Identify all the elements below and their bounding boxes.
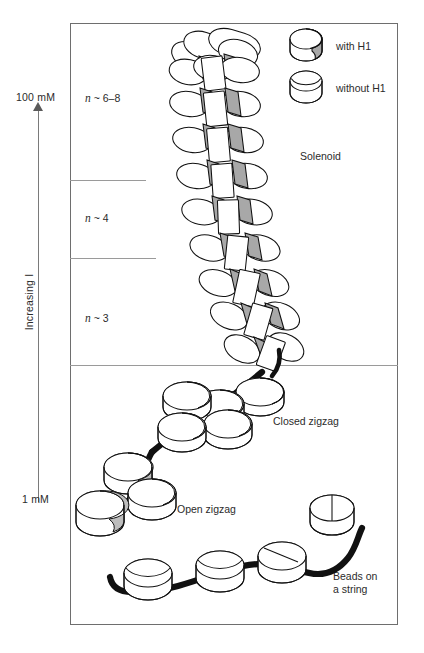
- chromatin-structure-illustration: [0, 0, 424, 653]
- solenoid-tier-4: [171, 124, 266, 163]
- open-zigzag-nucleosome-3: [76, 491, 129, 536]
- solenoid-tier-9: [206, 297, 304, 341]
- closed-zigzag-nucleosome-5: [158, 413, 206, 452]
- solenoid-stack: [167, 24, 309, 376]
- solenoid-tier-7: [187, 231, 283, 271]
- solenoid-tier-3: [168, 88, 263, 127]
- solenoid-tier-6: [179, 196, 274, 235]
- solenoid-tier-8: [195, 265, 292, 307]
- solenoid-tier-5: [175, 160, 270, 199]
- open-zigzag-nucleosome-2: [128, 479, 176, 520]
- bead-nucleosome-4: [310, 495, 354, 535]
- closed-zigzag-nucleosome-4: [204, 410, 252, 449]
- bead-nucleosome-1: [124, 559, 172, 600]
- bead-nucleosome-2: [196, 551, 244, 592]
- bead-nucleosome-3: [258, 542, 306, 583]
- figure-canvas: 100 mM 1 mM Increasing I n ~ 6–8 n ~ 4 n…: [0, 0, 424, 653]
- closed-zigzag-cluster: [152, 372, 284, 452]
- open-zigzag-cluster: [76, 452, 176, 536]
